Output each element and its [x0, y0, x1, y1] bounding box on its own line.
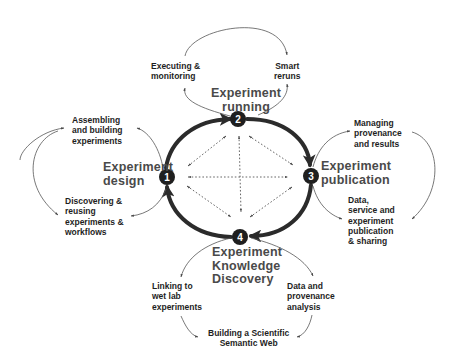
activity-executing-monitoring: Executing & monitoring [151, 61, 200, 82]
activity-assembling-building: Assembling and building experiments [72, 115, 123, 146]
activity-data-provenance-analysis: Data and provenance analysis [287, 281, 335, 312]
inner-dotted-links [187, 136, 293, 217]
stage-node-4: 4 [232, 229, 248, 245]
activity-linking-wet-lab: Linking to wet lab experiments [152, 281, 202, 312]
activity-smart-reruns: Smart reruns [274, 61, 300, 82]
arc-publication-to-discovery [251, 185, 311, 236]
svg-text:2: 2 [235, 114, 241, 125]
svg-text:3: 3 [308, 171, 314, 182]
stage-node-3: 3 [303, 168, 319, 184]
activity-data-service-publication: Data, service and experiment publication… [348, 195, 395, 246]
stage-label-discovery: Experiment Knowledge Discovery [212, 246, 282, 287]
stage-label-publication: Experiment publication [321, 160, 391, 187]
activity-managing-provenance: Managing provenance and results [354, 118, 402, 149]
activity-discovering-reusing: Discovering & reusing experiments & work… [65, 196, 124, 237]
arc-design-to-running [166, 119, 230, 168]
activity-building-semantic-web: Building a Scientific Semantic Web [208, 328, 289, 349]
main-cycle [166, 119, 311, 237]
svg-text:4: 4 [237, 232, 243, 243]
arc-running-to-publication [247, 119, 310, 165]
stage-label-design: Experiment design [103, 161, 173, 188]
stage-label-running: Experiment running [211, 87, 281, 114]
experiment-lifecycle-diagram: 1 2 3 4 [0, 0, 464, 364]
